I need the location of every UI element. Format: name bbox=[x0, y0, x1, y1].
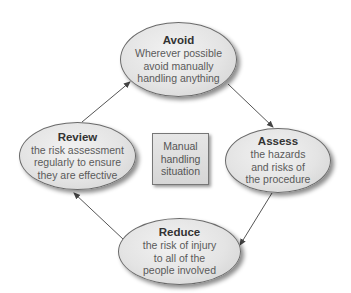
node-avoid: Avoid Wherever possible avoid manually h… bbox=[120, 22, 237, 97]
node-title: Assess bbox=[258, 135, 298, 148]
node-desc-line: the procedure bbox=[246, 173, 311, 186]
center-line: handling bbox=[161, 153, 201, 166]
node-title: Avoid bbox=[163, 34, 195, 47]
node-desc-line: the risk of injury bbox=[143, 239, 217, 252]
arrow-review-to-avoid bbox=[82, 82, 130, 122]
arrow-avoid-to-assess bbox=[228, 84, 273, 127]
node-desc-line: they are effective bbox=[38, 169, 118, 182]
node-desc-line: regularly to ensure bbox=[34, 156, 121, 169]
node-desc-line: people involved bbox=[143, 264, 216, 277]
node-title: Review bbox=[58, 131, 98, 144]
node-assess: Assess the hazards and risks of the proc… bbox=[225, 128, 331, 193]
node-desc-line: Wherever possible bbox=[135, 47, 222, 60]
arrow-reduce-to-review bbox=[74, 193, 124, 240]
node-desc-line: handling anything bbox=[137, 72, 219, 85]
node-desc-line: the risk assessment bbox=[31, 144, 124, 157]
center-line: situation bbox=[161, 165, 201, 178]
node-desc-line: and risks of bbox=[251, 161, 305, 174]
node-review: Review the risk assessment regularly to … bbox=[19, 122, 136, 190]
arrow-assess-to-reduce bbox=[240, 193, 272, 245]
node-title: Reduce bbox=[159, 226, 201, 239]
node-desc-line: avoid manually bbox=[143, 60, 213, 73]
node-desc-line: to all of the bbox=[154, 252, 205, 265]
center-line: Manual bbox=[161, 140, 201, 153]
center-box: Manual handling situation bbox=[152, 133, 209, 185]
node-desc-line: the hazards bbox=[251, 148, 306, 161]
node-reduce: Reduce the risk of injury to all of the … bbox=[118, 218, 241, 285]
